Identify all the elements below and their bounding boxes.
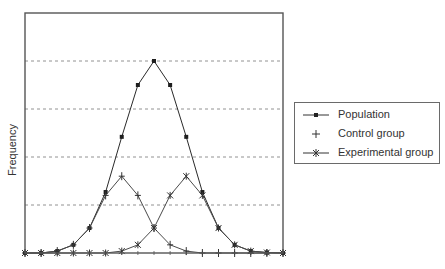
square-marker-icon [303, 106, 329, 124]
legend-item-control-group: Control group [295, 125, 439, 143]
series-line [25, 176, 283, 253]
plus-marker-icon [303, 125, 329, 143]
legend-label: Experimental group [338, 146, 433, 158]
legend-item-population: Population [295, 106, 439, 124]
legend-label: Control group [338, 127, 405, 139]
y-axis-label: Frequency [2, 120, 22, 180]
legend: Population Control group Experimental gr… [294, 102, 440, 164]
asterisk-marker-icon [303, 144, 329, 162]
legend-label: Population [338, 108, 390, 120]
y-axis-label-text: Frequency [6, 124, 18, 176]
legend-item-experimental-group: Experimental group [295, 144, 439, 162]
plot-frame [25, 13, 283, 253]
series-lines [22, 59, 286, 257]
series-line [25, 176, 283, 253]
